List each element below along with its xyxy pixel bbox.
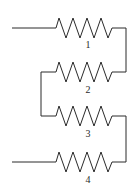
resistor-1-zigzag	[56, 18, 116, 38]
resistor-4-label: 4	[86, 174, 91, 185]
resistor-3-label: 3	[86, 128, 91, 139]
resistor-2	[41, 62, 116, 116]
resistor-3	[56, 106, 126, 162]
resistor-2-zigzag	[56, 62, 116, 82]
wire-3-to-4	[116, 116, 126, 162]
resistor-4	[12, 152, 116, 172]
circuit-diagram: 1 2 3 4	[0, 0, 138, 187]
wire-1-to-2	[116, 28, 126, 72]
wire-2-to-3	[41, 72, 56, 116]
resistor-1-label: 1	[86, 39, 91, 50]
resistor-2-label: 2	[86, 84, 91, 95]
resistor-4-zigzag	[56, 152, 116, 172]
resistor-3-zigzag	[56, 106, 116, 126]
resistor-1	[12, 18, 126, 72]
